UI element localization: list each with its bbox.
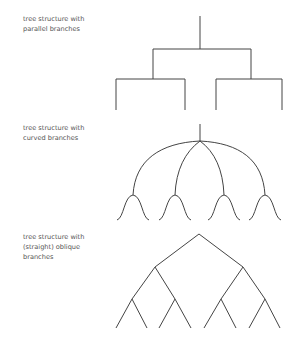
oblique-branch-tree [116,234,280,328]
curved-branch-tree [117,124,281,220]
tree-diagrams [0,0,304,351]
parallel-branch-tree [116,16,282,110]
